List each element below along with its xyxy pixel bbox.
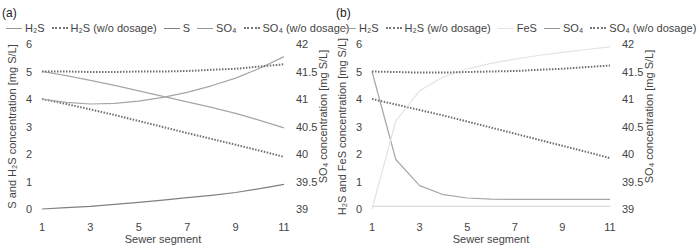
y-left-tick: 6 [356,38,362,50]
y-left-tick: 1 [26,176,32,188]
y-right-tick: 42 [296,38,308,50]
y-left-tick: 4 [26,93,32,105]
y-right-tick: 39.5 [296,176,317,188]
x-tick: 7 [184,221,190,233]
y-left-axis-label: S and H₂S concentration [mg S/L] [6,44,18,208]
y-left-tick: 2 [356,148,362,160]
series-line-so4-w-o-dosage [372,66,610,73]
y-right-tick: 41 [622,93,634,105]
y-right-tick: 41 [296,93,308,105]
y-right-axis-label: SO₄ concentration [mg S/L] [643,50,655,184]
y-right-tick: 40 [622,148,634,160]
y-left-tick: 0 [356,203,362,215]
y-right-tick: 39 [296,203,308,215]
y-right-tick: 40 [296,148,308,160]
y-left-tick: 6 [26,38,32,50]
plot-area: 01234563939.54040.54141.5421357911Sewer … [334,0,668,248]
x-tick: 11 [604,221,615,233]
y-left-tick: 3 [356,121,362,133]
series-line-h2s [372,72,610,200]
x-tick: 9 [559,221,565,233]
plot-area: 01234563939.54040.54141.5421357911Sewer … [0,0,334,248]
y-left-tick: 1 [356,176,362,188]
y-right-tick: 41.5 [296,66,317,78]
y-left-tick: 0 [26,203,32,215]
y-right-tick: 41.5 [622,66,643,78]
y-right-axis-label: SO₄ concentration [mg S/L] [317,50,329,184]
y-right-tick: 40.5 [296,121,317,133]
series-line-so4 [42,57,284,104]
series-line-h2s [42,72,284,128]
x-tick: 3 [87,221,93,233]
x-tick: 5 [464,221,470,233]
x-tick: 1 [39,221,45,233]
x-axis-label: Sewer segment [453,233,529,245]
y-right-tick: 42 [622,38,634,50]
x-axis-label: Sewer segment [125,233,201,245]
y-left-tick: 2 [26,148,32,160]
x-tick: 9 [233,221,239,233]
x-tick: 5 [136,221,142,233]
y-right-tick: 39.5 [622,176,643,188]
series-line-h2s-w-o-dosage [42,99,284,157]
y-left-tick: 5 [26,66,32,78]
y-right-tick: 40.5 [622,121,643,133]
x-tick: 7 [512,221,518,233]
series-line-so4-w-o-dosage [42,64,284,72]
y-left-axis-label: H₂S and FeS concentration [mg S/L] [336,38,348,215]
series-line-fes [372,47,610,209]
y-right-tick: 39 [622,203,634,215]
chart-panel-a: (a) H₂S H₂S (w/o dosage) S SO₄ SO₄ (w/o … [0,0,334,248]
x-tick: 11 [278,221,289,233]
y-left-tick: 5 [356,66,362,78]
chart-panel-b: (b) H₂S H₂S (w/o dosage) FeS SO₄ SO₄ (w/… [334,0,668,248]
y-left-tick: 4 [356,93,362,105]
x-tick: 3 [417,221,423,233]
series-line-h2s-w-o-dosage [372,99,610,158]
x-tick: 1 [369,221,375,233]
series-line-s [42,184,284,209]
y-left-tick: 3 [26,121,32,133]
